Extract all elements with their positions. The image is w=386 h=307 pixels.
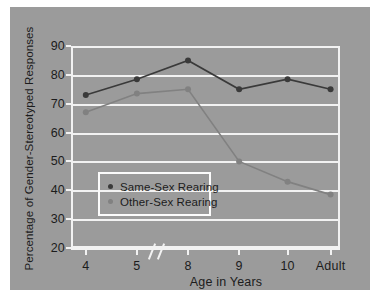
x-axis-title: Age in Years <box>10 275 370 289</box>
x-axis-tick-label: 5 <box>133 259 140 273</box>
gridline <box>71 248 340 250</box>
data-point <box>83 109 89 115</box>
x-axis-tick-label: Adult <box>316 259 346 273</box>
legend: Same-Sex Rearing Other-Sex Rearing <box>98 172 211 216</box>
data-point <box>285 76 291 82</box>
data-series-layer <box>71 46 340 248</box>
series-line <box>86 60 331 95</box>
chart-panel: Percentage of Gender-Stereotyped Respons… <box>10 7 370 290</box>
y-axis-tick-label: 70 <box>35 97 65 111</box>
legend-item-label: Other-Sex Rearing <box>120 196 218 208</box>
x-axis-tick-label: 4 <box>82 259 89 273</box>
data-point <box>236 86 242 92</box>
legend-item: Same-Sex Rearing <box>108 179 203 194</box>
data-point <box>185 86 191 92</box>
y-axis-tick-label: 50 <box>35 154 65 168</box>
chart-screenshot: Percentage of Gender-Stereotyped Respons… <box>0 0 386 307</box>
data-point <box>83 92 89 98</box>
y-axis-tick-label: 40 <box>35 183 65 197</box>
y-axis-tick-label: 90 <box>35 39 65 53</box>
data-point <box>328 192 334 198</box>
y-axis-tick-label: 60 <box>35 126 65 140</box>
legend-marker-icon <box>108 184 113 189</box>
y-axis-tick-label: 80 <box>35 68 65 82</box>
y-axis-tick-label: 30 <box>35 212 65 226</box>
data-point <box>134 76 140 82</box>
data-point <box>236 158 242 164</box>
data-point <box>134 91 140 97</box>
legend-item-label: Same-Sex Rearing <box>120 181 219 193</box>
data-point <box>328 86 334 92</box>
legend-item: Other-Sex Rearing <box>108 194 203 209</box>
x-axis-tick-label: 8 <box>184 259 191 273</box>
y-axis-tick-label: 20 <box>35 241 65 255</box>
x-axis-title-text: Age in Years <box>190 275 263 289</box>
x-axis-tick-label: 9 <box>236 259 243 273</box>
axis-break-icon <box>146 243 172 263</box>
data-point <box>185 57 191 63</box>
x-axis-tick-label: 10 <box>280 259 294 273</box>
plot-area <box>71 46 340 248</box>
data-point <box>285 179 291 185</box>
legend-marker-icon <box>108 199 113 204</box>
